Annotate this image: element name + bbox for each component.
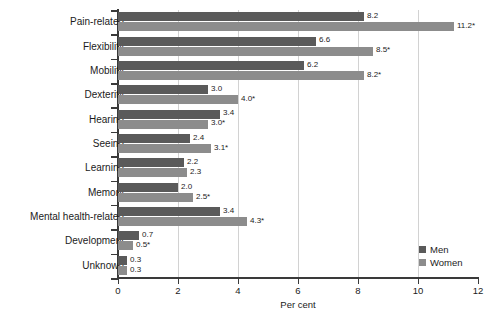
bar-value-label: 6.6 [319, 36, 330, 44]
bar-value-label: 2.0 [181, 183, 192, 191]
y-axis-tick [111, 107, 118, 109]
bar-women[interactable] [118, 217, 247, 226]
y-axis-tick [111, 229, 118, 231]
bar-value-label: 2.3 [190, 168, 201, 176]
bar-women[interactable] [118, 22, 454, 31]
bar-men[interactable] [118, 231, 139, 240]
legend-item-women[interactable]: Women [419, 256, 463, 269]
x-axis-tick-label: 8 [355, 285, 360, 296]
chart-category-row: Flexibility6.68.5* [0, 34, 498, 58]
x-axis-tick [238, 279, 239, 284]
bar-value-label: 0.3 [130, 256, 141, 264]
bar-men[interactable] [118, 256, 127, 265]
bar-men[interactable] [118, 158, 184, 167]
legend-label-women: Women [430, 257, 463, 268]
x-axis-tick [478, 279, 479, 284]
bar-value-label: 3.0 [211, 85, 222, 93]
chart-category-row: Pain-related8.211.2* [0, 10, 498, 34]
bar-women[interactable] [118, 71, 364, 80]
x-axis-tick-label: 0 [115, 285, 120, 296]
bar-value-label: 3.0* [211, 119, 225, 127]
bar-men[interactable] [118, 207, 220, 216]
chart-category-row: Dexterity3.04.0* [0, 83, 498, 107]
y-axis-tick [111, 59, 118, 61]
bar-women[interactable] [118, 144, 211, 153]
bar-women[interactable] [118, 266, 127, 275]
legend-swatch-men-icon [419, 246, 426, 253]
bar-women[interactable] [118, 241, 133, 250]
bar-men[interactable] [118, 37, 316, 46]
chart-category-row: Seeing2.43.1* [0, 132, 498, 156]
bar-women[interactable] [118, 47, 373, 56]
y-axis-category-label: Mental health-related [30, 212, 124, 222]
x-axis-tick-label: 2 [175, 285, 180, 296]
chart-legend: Men Women [419, 243, 463, 269]
bar-value-label: 8.2* [367, 71, 381, 79]
y-axis-category-label: Pain-related [70, 17, 124, 27]
bar-value-label: 2.5* [196, 193, 210, 201]
bar-men[interactable] [118, 110, 220, 119]
y-axis-tick [111, 83, 118, 85]
legend-item-men[interactable]: Men [419, 243, 463, 256]
chart-category-row: Hearing3.43.0* [0, 107, 498, 131]
bar-value-label: 2.2 [187, 158, 198, 166]
bar-women[interactable] [118, 95, 238, 104]
y-axis-tick [111, 132, 118, 134]
bar-value-label: 3.4 [223, 109, 234, 117]
bar-men[interactable] [118, 61, 304, 70]
bar-value-label: 3.1* [214, 144, 228, 152]
x-axis-tick [118, 279, 119, 284]
bar-women[interactable] [118, 168, 187, 177]
chart-category-row: Learning2.22.3 [0, 156, 498, 180]
y-axis-tick [111, 156, 118, 158]
x-axis-tick-label: 12 [473, 285, 484, 296]
y-axis-tick [111, 34, 118, 36]
bar-men[interactable] [118, 134, 190, 143]
y-axis-tick [111, 278, 118, 280]
bar-value-label: 11.2* [457, 22, 475, 30]
x-axis-tick-label: 6 [295, 285, 300, 296]
bar-value-label: 0.3 [130, 266, 141, 274]
x-axis-tick [298, 279, 299, 284]
bar-men[interactable] [118, 85, 208, 94]
bar-value-label: 3.4 [223, 207, 234, 215]
x-axis-tick-label: 10 [413, 285, 424, 296]
y-axis-tick [111, 205, 118, 207]
y-axis-tick [111, 10, 118, 12]
bar-chart: 024681012 Pain-related8.211.2*Flexibilit… [0, 0, 498, 316]
bar-value-label: 0.5* [136, 241, 150, 249]
y-axis-category-label: Development [65, 236, 124, 246]
bar-men[interactable] [118, 183, 178, 192]
bar-value-label: 4.0* [241, 95, 255, 103]
chart-category-row: Mental health-related3.44.3* [0, 205, 498, 229]
bar-value-label: 4.3* [250, 217, 264, 225]
bar-women[interactable] [118, 193, 193, 202]
bar-value-label: 0.7 [142, 231, 153, 239]
y-axis-tick [111, 254, 118, 256]
bar-value-label: 2.4 [193, 134, 204, 142]
legend-label-men: Men [430, 244, 448, 255]
y-axis-tick [111, 181, 118, 183]
legend-swatch-women-icon [419, 259, 426, 266]
x-axis-tick-label: 4 [235, 285, 240, 296]
bar-women[interactable] [118, 120, 208, 129]
x-axis-title: Per cent [280, 299, 315, 310]
x-axis-tick [178, 279, 179, 284]
x-axis-tick [418, 279, 419, 284]
chart-category-row: Memory2.02.5* [0, 181, 498, 205]
x-axis-tick [358, 279, 359, 284]
bar-value-label: 8.2 [367, 12, 378, 20]
chart-category-row: Mobility6.28.2* [0, 59, 498, 83]
bar-value-label: 6.2 [307, 61, 318, 69]
bar-value-label: 8.5* [376, 46, 390, 54]
bar-men[interactable] [118, 12, 364, 21]
